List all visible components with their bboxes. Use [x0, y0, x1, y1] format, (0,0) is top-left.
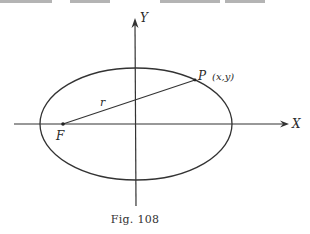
focus-point — [61, 122, 65, 126]
point-p — [194, 79, 197, 82]
radius-vector-r — [63, 80, 195, 124]
figure-caption: Fig. 108 — [0, 213, 270, 226]
point-p-label: P — [198, 70, 206, 82]
ellipse-diagram — [0, 0, 310, 234]
y-axis — [135, 24, 136, 206]
focus-label: F — [56, 130, 64, 142]
point-p-coords: (x,y) — [212, 72, 234, 82]
segment-r-label: r — [100, 97, 105, 108]
x-axis-label: X — [292, 118, 301, 130]
y-axis-label: Y — [140, 12, 148, 24]
